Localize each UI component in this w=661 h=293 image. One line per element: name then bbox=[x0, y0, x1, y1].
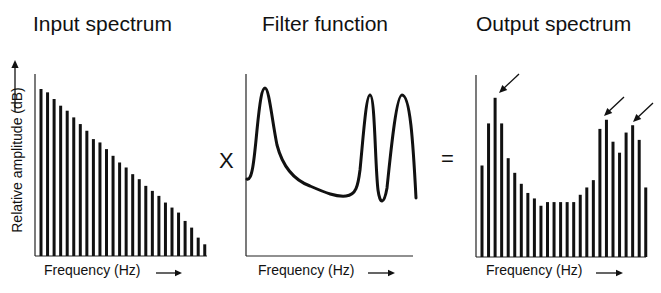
diagram-canvas bbox=[0, 0, 661, 293]
